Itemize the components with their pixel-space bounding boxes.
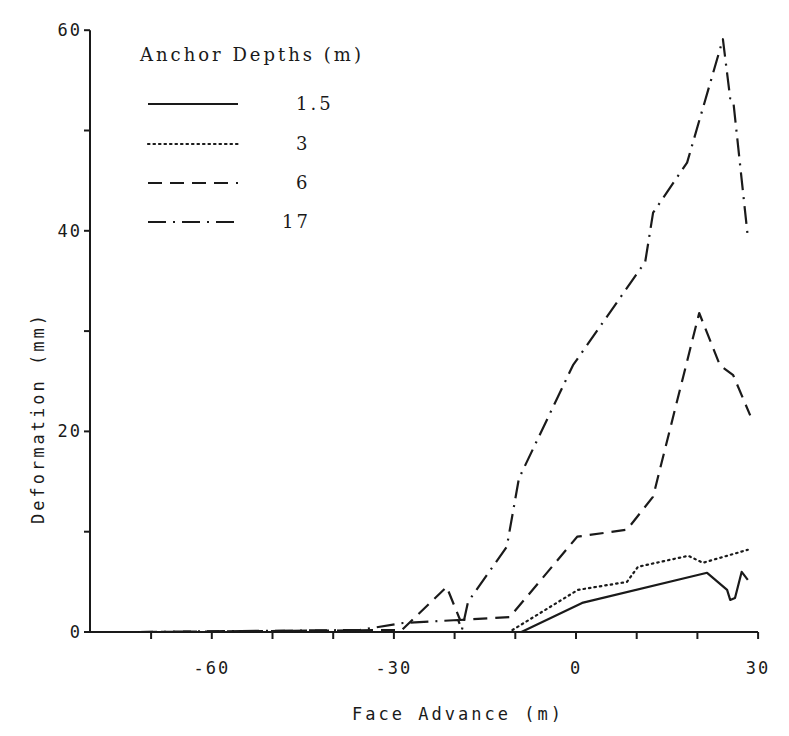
- y-tick-label: 40: [58, 221, 82, 241]
- deformation-chart: 0204060-60-30030 Anchor Depths (m)1.5361…: [0, 0, 789, 736]
- x-tick-label: -60: [193, 658, 230, 678]
- axes: 0204060-60-30030: [58, 20, 771, 678]
- y-tick-label: 20: [58, 421, 82, 441]
- x-tick-label: 30: [746, 658, 770, 678]
- y-axis-label: Deformation (mm): [28, 312, 48, 524]
- series-1-5m: [139, 572, 748, 632]
- x-axis-label: Face Advance (m): [352, 704, 564, 724]
- data-series: [139, 39, 750, 632]
- y-tick-label: 60: [58, 20, 82, 40]
- legend-label: 17: [282, 211, 311, 232]
- x-tick-label: 0: [570, 658, 582, 678]
- y-tick-label: 0: [70, 622, 82, 642]
- legend: Anchor Depths (m)1.53617: [139, 44, 364, 232]
- series-17m: [139, 39, 748, 632]
- legend-label: 1.5: [296, 93, 334, 114]
- legend-label: 3: [296, 133, 310, 154]
- legend-title: Anchor Depths (m): [139, 44, 364, 65]
- x-tick-label: -30: [376, 658, 413, 678]
- legend-label: 6: [296, 172, 310, 193]
